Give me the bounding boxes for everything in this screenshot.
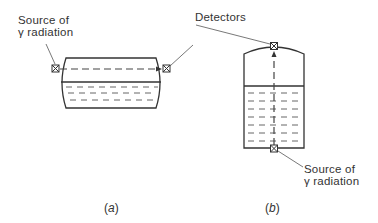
horizontal-beam [60, 67, 162, 72]
gamma-source-icon [271, 145, 278, 152]
caption-a-close: ) [115, 201, 119, 215]
detector-icon [163, 65, 170, 72]
leader-detector-b [196, 25, 270, 44]
source-label-a: Source of γ radiation [18, 14, 73, 38]
caption-b-close: ) [276, 201, 280, 215]
leader-source-a [46, 44, 55, 64]
vertical-tank-liquid-dashes [248, 93, 302, 141]
gamma-source-icon [52, 65, 59, 72]
caption-b-letter: b [269, 201, 276, 215]
leader-source-b [278, 151, 303, 167]
caption-a: (a) [104, 201, 119, 215]
source-label-b-line2: γ radiation [304, 175, 359, 187]
source-label-b-line1: Source of [304, 163, 359, 175]
vertical-beam [272, 51, 277, 145]
source-label-b: Source of γ radiation [304, 163, 359, 187]
leader-detector-a [170, 45, 193, 66]
caption-b: (b) [265, 201, 280, 215]
horizontal-tank-liquid-dashes [66, 87, 158, 100]
detectors-label: Detectors [195, 11, 246, 23]
source-label-a-line2: γ radiation [18, 26, 73, 38]
caption-a-letter: a [108, 201, 115, 215]
source-label-a-line1: Source of [18, 14, 73, 26]
detector-icon [271, 43, 278, 50]
